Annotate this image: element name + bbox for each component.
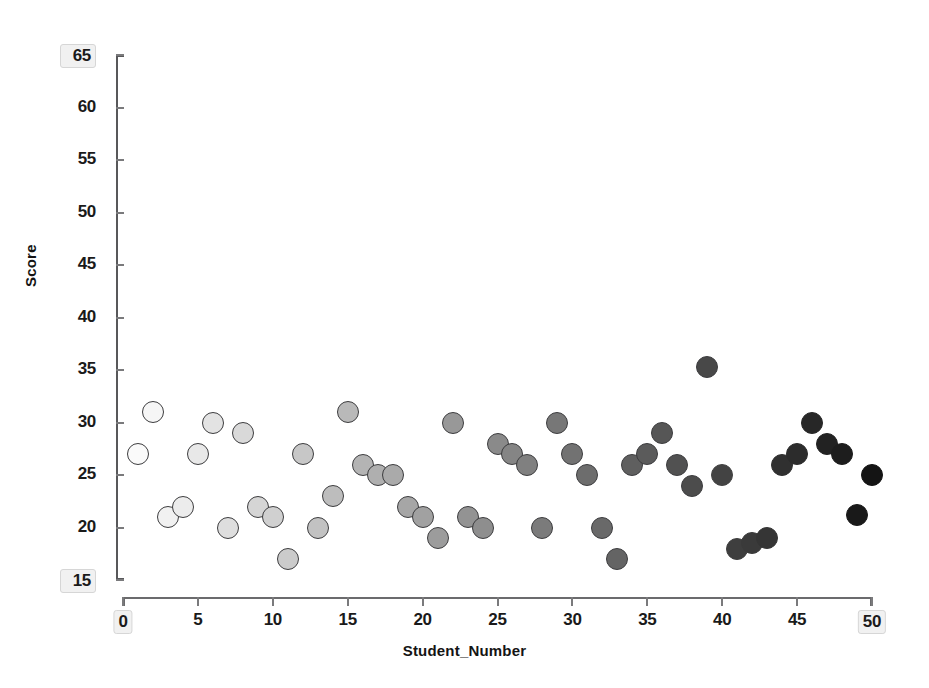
data-point[interactable] xyxy=(861,464,883,486)
data-point[interactable] xyxy=(412,506,434,528)
x-tick-mark xyxy=(796,597,798,606)
data-point[interactable] xyxy=(472,517,494,539)
data-point[interactable] xyxy=(846,504,868,526)
data-point[interactable] xyxy=(232,422,254,444)
data-point[interactable] xyxy=(531,517,553,539)
y-tick-label-30: 30 xyxy=(62,412,96,432)
y-tick-label-60: 60 xyxy=(62,97,96,117)
data-point[interactable] xyxy=(307,517,329,539)
x-tick-label-20: 20 xyxy=(413,610,431,630)
data-point[interactable] xyxy=(636,443,658,465)
y-tick-label-25: 25 xyxy=(62,464,96,484)
data-point[interactable] xyxy=(711,464,733,486)
data-point[interactable] xyxy=(516,454,538,476)
data-point[interactable] xyxy=(681,475,703,497)
data-point[interactable] xyxy=(262,506,284,528)
data-point[interactable] xyxy=(187,443,209,465)
plot-area[interactable] xyxy=(123,55,872,580)
y-tick-mark xyxy=(116,264,124,266)
data-point[interactable] xyxy=(127,443,149,465)
x-tick-label-10: 10 xyxy=(264,610,282,630)
x-tick-mark xyxy=(272,597,274,606)
y-tick-mark xyxy=(116,107,124,109)
data-point[interactable] xyxy=(696,356,718,378)
data-point[interactable] xyxy=(292,443,314,465)
y-tick-label-55: 55 xyxy=(62,149,96,169)
data-point[interactable] xyxy=(666,454,688,476)
data-point[interactable] xyxy=(202,412,224,434)
data-point[interactable] xyxy=(606,548,628,570)
x-tick-mark xyxy=(571,597,573,606)
x-tick-label-35: 35 xyxy=(638,610,656,630)
data-point[interactable] xyxy=(651,422,673,444)
data-point[interactable] xyxy=(546,412,568,434)
data-point[interactable] xyxy=(337,401,359,423)
data-point[interactable] xyxy=(382,464,404,486)
data-point[interactable] xyxy=(172,496,194,518)
x-tick-label-5: 5 xyxy=(193,610,202,630)
x-tick-mark xyxy=(197,597,199,606)
x-tick-label-15: 15 xyxy=(339,610,357,630)
y-tick-label-35: 35 xyxy=(62,359,96,379)
data-point[interactable] xyxy=(591,517,613,539)
data-point[interactable] xyxy=(442,412,464,434)
x-tick-label-0[interactable]: 0 xyxy=(113,610,132,634)
x-tick-mark xyxy=(347,597,349,606)
data-point[interactable] xyxy=(427,527,449,549)
data-point[interactable] xyxy=(217,517,239,539)
y-tick-label-50: 50 xyxy=(62,202,96,222)
data-point[interactable] xyxy=(576,464,598,486)
data-point[interactable] xyxy=(786,443,808,465)
y-tick-mark xyxy=(116,527,124,529)
data-point[interactable] xyxy=(142,401,164,423)
scatter-plot-figure: 1520253035404550556065 05101520253035404… xyxy=(0,0,929,688)
y-tick-mark xyxy=(116,579,124,581)
y-tick-label-65[interactable]: 65 xyxy=(60,44,96,68)
y-tick-mark xyxy=(116,54,124,56)
x-axis-title: Student_Number xyxy=(0,642,929,659)
x-tick-mark xyxy=(122,597,124,606)
x-tick-mark xyxy=(497,597,499,606)
y-tick-label-40: 40 xyxy=(62,307,96,327)
x-tick-mark xyxy=(646,597,648,606)
x-tick-mark xyxy=(422,597,424,606)
x-tick-label-45: 45 xyxy=(788,610,806,630)
x-tick-label-40: 40 xyxy=(713,610,731,630)
data-point[interactable] xyxy=(801,412,823,434)
y-axis-title: Score xyxy=(22,244,39,287)
y-tick-mark xyxy=(116,474,124,476)
x-tick-label-30: 30 xyxy=(563,610,581,630)
y-tick-mark xyxy=(116,159,124,161)
y-tick-label-15[interactable]: 15 xyxy=(60,569,96,593)
data-point[interactable] xyxy=(831,443,853,465)
y-tick-mark xyxy=(116,369,124,371)
data-point[interactable] xyxy=(756,527,778,549)
x-tick-mark xyxy=(721,597,723,606)
y-tick-mark xyxy=(116,212,124,214)
data-point[interactable] xyxy=(277,548,299,570)
y-tick-mark xyxy=(116,317,124,319)
y-tick-label-20: 20 xyxy=(62,517,96,537)
x-tick-label-25: 25 xyxy=(488,610,506,630)
x-tick-label-50[interactable]: 50 xyxy=(858,610,886,634)
x-tick-mark xyxy=(871,597,873,606)
y-tick-mark xyxy=(116,422,124,424)
data-point[interactable] xyxy=(322,485,344,507)
y-tick-label-45: 45 xyxy=(62,254,96,274)
data-point[interactable] xyxy=(561,443,583,465)
